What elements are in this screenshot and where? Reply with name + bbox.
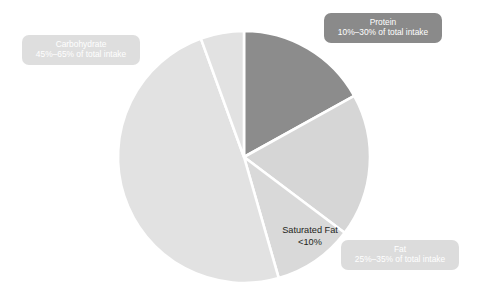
callout-protein[interactable]: Protein 10%–30% of total intake [324,13,442,43]
callout-protein-title: Protein [331,17,435,27]
label-saturated-fat-sub: <10% [262,236,358,248]
callout-fat-title: Fat [348,244,452,254]
callout-fat-sub: 25%–35% of total intake [348,254,452,264]
callout-carbohydrate-sub: 45%–65% of total intake [29,49,133,59]
callout-fat[interactable]: Fat 25%–35% of total intake [341,240,459,270]
callout-carbohydrate-title: Carbohydrate [29,39,133,49]
label-saturated-fat-title: Saturated Fat [262,224,358,236]
callout-protein-sub: 10%–30% of total intake [331,27,435,37]
label-saturated-fat: Saturated Fat <10% [262,224,358,248]
callout-carbohydrate[interactable]: Carbohydrate 45%–65% of total intake [22,35,140,65]
pie-chart-container: Protein 10%–30% of total intake Carbohyd… [0,0,477,299]
